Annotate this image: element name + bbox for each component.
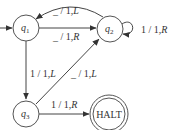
label-q1-q3: 1 / 1,L — [30, 68, 56, 79]
state-q1[interactable]: q1 — [13, 15, 39, 41]
state-halt-label: HALT — [96, 109, 122, 120]
label-q3-halt: 1 / 1,R — [51, 99, 77, 110]
state-halt[interactable]: HALT — [90, 95, 128, 130]
state-q3[interactable]: q3 — [13, 101, 39, 127]
label-q2-q1: _ / 1,L — [52, 5, 79, 16]
state-diagram: q1 q2 q3 HALT _ / 1,L _ / 1,R 1 / 1,R 1 … — [0, 0, 171, 130]
label-q3-q2: _ / 1,L — [70, 68, 97, 79]
label-q2-q2: 1 / 1,R — [141, 24, 167, 35]
edge-q2-q2 — [122, 22, 133, 34]
state-q2[interactable]: q2 — [97, 16, 123, 42]
label-q1-q2: _ / 1,R — [52, 31, 79, 42]
